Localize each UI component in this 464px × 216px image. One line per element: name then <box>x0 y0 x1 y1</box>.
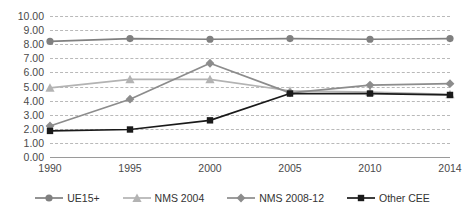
data-point-marker <box>366 81 375 90</box>
y-axis-tick-label: 7.00 <box>24 53 44 64</box>
y-axis-tick-label: 1.00 <box>24 138 44 149</box>
legend-label: Other CEE <box>379 193 430 204</box>
legend-circle-icon <box>34 192 64 204</box>
legend-label: UE15+ <box>67 193 99 204</box>
legend-label: NMS 2008-12 <box>259 193 324 204</box>
line-chart: 10.009.008.007.006.005.004.003.002.001.0… <box>0 0 464 216</box>
x-axis-tick-label: 2005 <box>278 163 301 174</box>
data-point-marker <box>126 95 135 104</box>
legend-triangle-icon <box>122 192 152 204</box>
series-line <box>50 39 450 42</box>
data-point-marker <box>126 35 133 42</box>
y-axis-tick-label: 5.00 <box>24 81 44 92</box>
data-point-marker <box>367 90 373 96</box>
plot-area <box>50 16 450 157</box>
series-line <box>50 94 450 131</box>
x-axis-tick-label: 1995 <box>118 163 141 174</box>
y-axis-tick-label: 8.00 <box>24 39 44 50</box>
y-axis-tick-label: 9.00 <box>24 25 44 36</box>
data-point-marker <box>358 195 364 201</box>
legend-item-ue15-[interactable]: UE15+ <box>34 192 99 204</box>
series-ue15- <box>46 35 453 45</box>
data-point-marker <box>127 126 133 132</box>
data-point-marker <box>447 92 453 98</box>
data-point-marker <box>207 117 213 123</box>
x-axis-tick-label: 1990 <box>38 163 61 174</box>
x-axis-tick-label: 2014 <box>438 163 461 174</box>
data-point-marker <box>206 36 213 43</box>
data-point-marker <box>237 194 246 203</box>
legend-item-other-cee[interactable]: Other CEE <box>346 192 430 204</box>
y-axis-tick-label: 3.00 <box>24 109 44 120</box>
x-axis-line <box>50 157 450 158</box>
data-point-marker <box>286 35 293 42</box>
x-axis: 199019952000200520102014 <box>50 163 450 183</box>
data-point-marker <box>366 36 373 43</box>
x-axis-tick-label: 2010 <box>358 163 381 174</box>
y-axis-tick-label: 4.00 <box>24 95 44 106</box>
x-axis-tick-label: 2000 <box>198 163 221 174</box>
data-point-marker <box>46 194 53 201</box>
series-layer <box>50 16 450 157</box>
chart-legend: UE15+NMS 2004NMS 2008-12Other CEE <box>0 192 464 204</box>
data-point-marker <box>47 128 53 134</box>
y-axis: 10.009.008.007.006.005.004.003.002.001.0… <box>0 16 44 157</box>
legend-square-icon <box>346 192 376 204</box>
data-point-marker <box>287 90 293 96</box>
legend-item-nms-2008-12[interactable]: NMS 2008-12 <box>226 192 324 204</box>
legend-diamond-icon <box>226 192 256 204</box>
data-point-marker <box>46 38 53 45</box>
legend-label: NMS 2004 <box>155 193 205 204</box>
y-axis-tick-label: 10.00 <box>18 11 44 22</box>
legend-item-nms-2004[interactable]: NMS 2004 <box>122 192 205 204</box>
data-point-marker <box>446 79 455 88</box>
data-point-marker <box>446 35 453 42</box>
series-line <box>50 79 450 94</box>
y-axis-tick-label: 0.00 <box>24 152 44 163</box>
y-axis-tick-label: 6.00 <box>24 67 44 78</box>
data-point-marker <box>206 59 215 68</box>
y-axis-tick-label: 2.00 <box>24 124 44 135</box>
series-other-cee <box>47 90 453 134</box>
